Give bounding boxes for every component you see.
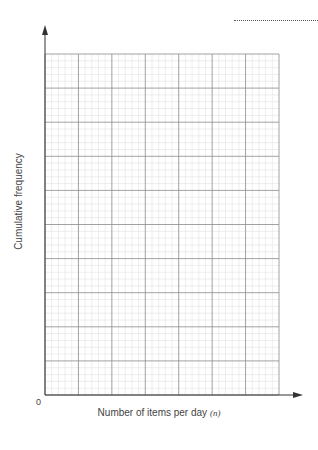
graph-paper-grid [0, 0, 318, 450]
x-axis-arrow-icon [293, 392, 303, 398]
y-axis-label: Cumulative frequency [13, 132, 24, 272]
origin-label: 0 [36, 397, 41, 407]
y-axis-arrow-icon [42, 25, 48, 35]
x-axis-label: Number of items per day (n) [0, 407, 318, 418]
